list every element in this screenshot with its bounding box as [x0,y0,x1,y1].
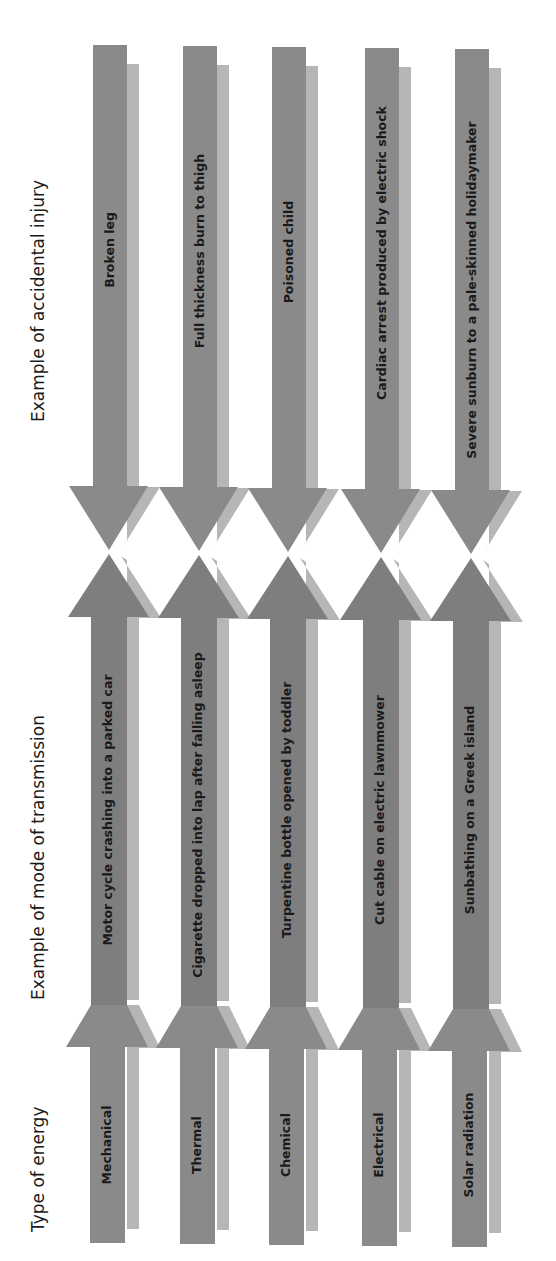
transmission-label-5: Sunbathing on a Greek island [453,615,487,1005]
energy-label-2: Thermal [180,1060,214,1230]
injury-label-4: Cardiac arrest produced by electric shoc… [365,63,399,443]
energy-label-1: Mechanical [90,1060,124,1230]
injury-label-3: Poisoned child [272,62,306,442]
heading-transmission: Example of mode of transmission [28,715,48,1000]
injury-label-5: Severe sunburn to a pale-skinned holiday… [455,70,489,510]
transmission-label-3: Turpentine bottle opened by toddler [270,615,304,1005]
transmission-label-4: Cut cable on electric lawnmower [363,615,397,1005]
energy-label-3: Chemical [269,1060,303,1230]
heading-injury: Example of accidental injury [28,180,48,422]
energy-label-4: Electrical [362,1060,396,1230]
injury-label-2: Full thickness burn to thigh [183,61,217,441]
transmission-label-2: Cigarette dropped into lap after falling… [181,590,215,1040]
transmission-label-1: Motor cycle crashing into a parked car [91,615,125,1005]
injury-label-1: Broken leg [93,60,127,440]
energy-label-5: Solar radiation [452,1060,486,1230]
heading-energy: Type of energy [28,1107,48,1232]
